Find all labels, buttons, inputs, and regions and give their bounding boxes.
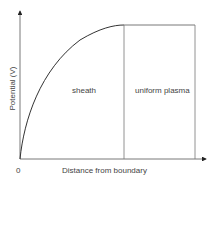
origin-label: 0 — [16, 166, 20, 175]
region-label-sheath: sheath — [72, 86, 96, 95]
x-axis-label: Distance from boundary — [62, 166, 147, 175]
y-axis-label: Potential (V) — [8, 59, 17, 119]
region-label-uniform-plasma: uniform plasma — [135, 86, 190, 95]
